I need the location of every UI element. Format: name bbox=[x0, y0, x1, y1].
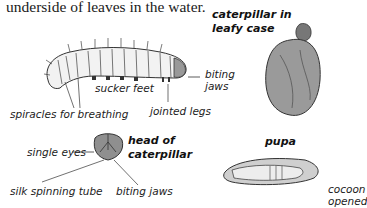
title-pupa: pupa bbox=[265, 135, 296, 149]
label-jointed-legs: jointed legs bbox=[150, 105, 211, 117]
title-leafy-case-1: caterpillar in bbox=[212, 8, 292, 22]
title-head-2: caterpillar bbox=[128, 148, 192, 162]
title-head-1: head of bbox=[128, 134, 175, 148]
leafy-case-illustration bbox=[266, 23, 321, 115]
label-biting-jaws-1: biting bbox=[205, 68, 235, 80]
label-single-eyes: single eyes bbox=[27, 146, 86, 158]
label-biting-jaws-2: jaws bbox=[205, 80, 228, 92]
label-spiracles: spiracles for breathing bbox=[10, 108, 128, 120]
pupa-illustration bbox=[224, 159, 318, 185]
label-cocoon: cocoon bbox=[328, 183, 365, 195]
label-opened: opened bbox=[328, 195, 367, 207]
caterpillar-head-illustration bbox=[42, 134, 138, 185]
label-biting-jaws-head: biting jaws bbox=[116, 185, 173, 197]
label-sucker-feet: sucker feet bbox=[95, 82, 154, 94]
title-leafy-case-2: leafy case bbox=[212, 22, 274, 36]
label-silk-tube: silk spinning tube bbox=[10, 185, 103, 197]
caterpillar-illustration bbox=[44, 38, 200, 108]
